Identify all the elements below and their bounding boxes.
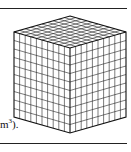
figure-caption: m3).	[0, 117, 18, 130]
caption-tail: ).	[12, 118, 18, 130]
bottom-rule	[0, 143, 127, 144]
caption-text: m	[0, 118, 9, 130]
cube-figure	[0, 0, 131, 152]
